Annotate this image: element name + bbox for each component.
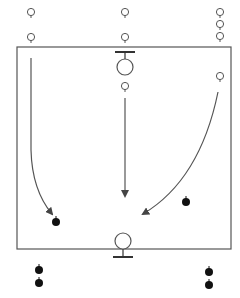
goalkeeper-icon: [117, 59, 133, 75]
attacker-icon: [121, 82, 128, 92]
top-goal: [115, 52, 135, 75]
defender-icon: [35, 264, 43, 274]
goalkeeper-icon: [115, 233, 131, 249]
attacker-icon: [27, 33, 34, 43]
right-run-arrow-icon: [143, 92, 218, 214]
attacker-icon: [27, 8, 34, 18]
drill-diagram: [0, 0, 240, 298]
movement-arrows: [31, 58, 218, 214]
attacker-icon: [216, 72, 223, 82]
defender-icon: [35, 277, 43, 287]
attacking-players: [27, 8, 223, 92]
diagram-canvas: [0, 0, 240, 298]
defender-icon: [205, 266, 213, 276]
attacker-icon: [121, 33, 128, 43]
bottom-goal: [113, 233, 133, 257]
defender-icon: [182, 196, 190, 206]
left-run-arrow-icon: [31, 58, 52, 214]
attacker-icon: [216, 20, 223, 30]
field-boundary: [17, 47, 231, 249]
defender-icon: [205, 279, 213, 289]
defender-icon: [52, 216, 60, 226]
attacker-icon: [216, 32, 223, 42]
attacker-icon: [216, 8, 223, 18]
attacker-icon: [121, 8, 128, 18]
